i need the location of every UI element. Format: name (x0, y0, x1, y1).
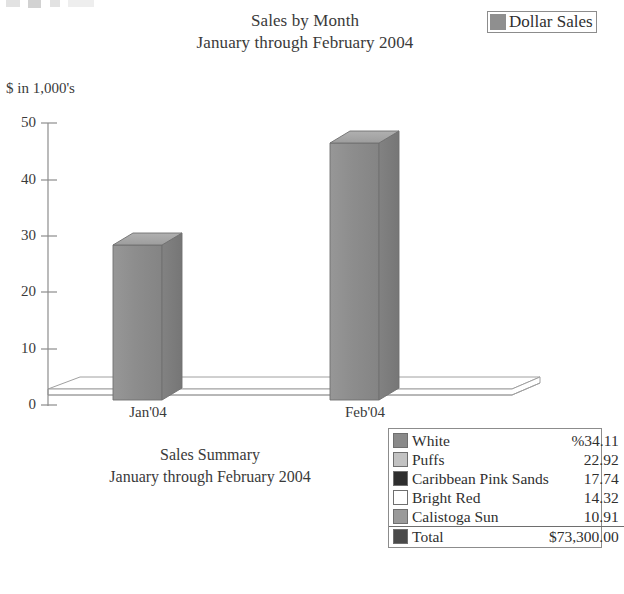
summary-swatch-cell (389, 507, 408, 527)
summary-item-name: Calistoga Sun (408, 507, 549, 527)
summary-item-value: %34.11 (549, 431, 624, 450)
color-swatch-icon (393, 490, 408, 505)
y-tick-label-30: 30 (2, 227, 36, 244)
x-tick-label-jan04: Jan'04 (105, 404, 191, 421)
y-tick-label-0: 0 (2, 396, 36, 413)
color-swatch-icon (393, 471, 408, 486)
table-row[interactable]: Puffs 22.92 (389, 450, 624, 469)
summary-item-name: White (408, 431, 549, 450)
x-tick-label-feb04: Feb'04 (322, 404, 408, 421)
y-axis (41, 123, 57, 406)
summary-item-name: Caribbean Pink Sands (408, 469, 549, 488)
bar-feb04[interactable] (330, 131, 399, 400)
summary-item-name: Puffs (408, 450, 549, 469)
table-row-total[interactable]: Total $73,300.00 (389, 527, 624, 547)
summary-item-value: 22.92 (549, 450, 624, 469)
table-row[interactable]: Caribbean Pink Sands 17.74 (389, 469, 624, 488)
summary-total-value: $73,300.00 (549, 527, 624, 547)
y-tick-label-50: 50 (2, 114, 36, 131)
summary-table-grid: White %34.11 Puffs 22.92 Caribbean Pink … (389, 431, 624, 546)
summary-swatch-cell (389, 488, 408, 507)
summary-swatch-cell (389, 431, 408, 450)
y-tick-label-10: 10 (2, 340, 36, 357)
summary-swatch-cell (389, 450, 408, 469)
color-swatch-icon (393, 529, 408, 544)
summary-table[interactable]: White %34.11 Puffs 22.92 Caribbean Pink … (388, 428, 602, 548)
color-swatch-icon (393, 509, 408, 524)
summary-total-label: Total (408, 527, 549, 547)
table-row[interactable]: Calistoga Sun 10.91 (389, 507, 624, 527)
summary-item-value: 14.32 (549, 488, 624, 507)
summary-item-value: 17.74 (549, 469, 624, 488)
color-swatch-icon (393, 452, 408, 467)
summary-swatch-cell (389, 469, 408, 488)
summary-item-name: Bright Red (408, 488, 549, 507)
table-row[interactable]: White %34.11 (389, 431, 624, 450)
summary-item-value: 10.91 (549, 507, 624, 527)
color-swatch-icon (393, 433, 408, 448)
y-tick-label-20: 20 (2, 283, 36, 300)
bar-jan04[interactable] (113, 233, 182, 400)
y-tick-label-40: 40 (2, 171, 36, 188)
caption-line2: January through February 2004 (40, 468, 380, 486)
caption-line1: Sales Summary (40, 446, 380, 464)
table-row[interactable]: Bright Red 14.32 (389, 488, 624, 507)
summary-swatch-cell (389, 527, 408, 547)
summary-table-body: White %34.11 Puffs 22.92 Caribbean Pink … (389, 431, 624, 546)
